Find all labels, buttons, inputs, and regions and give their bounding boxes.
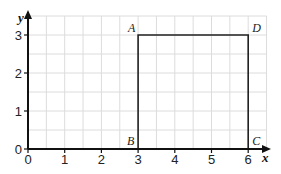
point-label-c: C (252, 134, 261, 148)
x-tick-label: 2 (98, 152, 105, 167)
x-tick-label: 4 (171, 152, 178, 167)
y-tick-label: 0 (15, 142, 22, 157)
chart: 01234560123 ADCB y x (0, 0, 281, 174)
point-labels: ADCB (127, 21, 261, 148)
x-axis-label: x (261, 150, 269, 165)
point-label-d: D (251, 21, 261, 35)
x-tick-label: 5 (208, 152, 215, 167)
point-label-a: A (127, 21, 136, 35)
x-tick-label: 6 (245, 152, 252, 167)
y-tick-label: 2 (15, 66, 22, 81)
grid (28, 16, 267, 149)
x-tick-label: 3 (134, 152, 141, 167)
y-tick-label: 3 (15, 28, 22, 43)
y-axis-arrow-icon (24, 10, 32, 19)
x-tick-label: 1 (61, 152, 68, 167)
x-tick-label: 0 (24, 152, 31, 167)
y-axis-label: y (16, 10, 24, 25)
y-tick-label: 1 (15, 104, 22, 119)
point-label-b: B (127, 134, 135, 148)
axes (24, 10, 271, 153)
